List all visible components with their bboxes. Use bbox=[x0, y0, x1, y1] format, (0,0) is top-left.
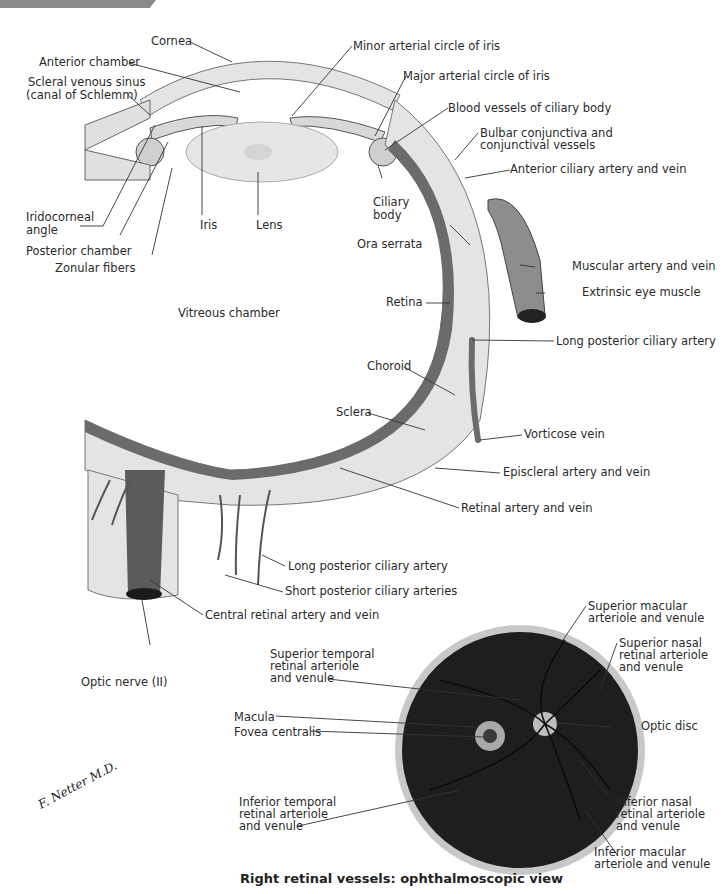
label-retina: Retina bbox=[386, 296, 423, 309]
label-superior-temporal-3: and venule bbox=[270, 672, 334, 685]
label-long-posterior-ciliary-2: Long posterior ciliary artery bbox=[288, 560, 448, 573]
label-short-posterior-ciliary: Short posterior ciliary arteries bbox=[285, 585, 457, 598]
label-long-posterior-ciliary-1: Long posterior ciliary artery bbox=[556, 335, 716, 348]
label-cornea: Cornea bbox=[151, 35, 192, 48]
label-major-arterial-circle: Major arterial circle of iris bbox=[403, 70, 550, 83]
label-vitreous-chamber: Vitreous chamber bbox=[178, 307, 280, 320]
label-macula: Macula bbox=[234, 711, 275, 724]
label-episcleral: Episcleral artery and vein bbox=[503, 466, 650, 479]
label-inferior-temporal-3: and venule bbox=[239, 820, 303, 833]
label-angle: angle bbox=[26, 224, 58, 237]
label-iris: Iris bbox=[200, 219, 217, 232]
label-lens: Lens bbox=[256, 219, 283, 232]
figure-caption: Right retinal vessels: ophthalmoscopic v… bbox=[240, 871, 563, 886]
label-choroid: Choroid bbox=[367, 360, 411, 373]
label-fovea-centralis: Fovea centralis bbox=[234, 726, 321, 739]
label-vorticose-vein: Vorticose vein bbox=[524, 428, 605, 441]
label-extrinsic-muscle: Extrinsic eye muscle bbox=[582, 286, 701, 299]
label-blood-vessels-ciliary: Blood vessels of ciliary body bbox=[448, 102, 611, 115]
label-canal-of-schlemm: (canal of Schlemm) bbox=[26, 89, 138, 102]
label-inferior-macular-2: arteriole and venule bbox=[594, 858, 710, 871]
label-superior-nasal-3: and venule bbox=[619, 661, 683, 674]
label-zonular-fibers: Zonular fibers bbox=[55, 262, 135, 275]
label-optic-disc: Optic disc bbox=[641, 720, 698, 733]
label-optic-nerve: Optic nerve (II) bbox=[81, 676, 167, 689]
label-anterior-chamber: Anterior chamber bbox=[39, 56, 140, 69]
label-retinal-artery: Retinal artery and vein bbox=[461, 502, 593, 515]
label-body: body bbox=[373, 209, 401, 222]
label-sclera: Sclera bbox=[336, 406, 372, 419]
label-minor-arterial-circle: Minor arterial circle of iris bbox=[353, 40, 500, 53]
label-conjunctival-vessels: conjunctival vessels bbox=[480, 139, 595, 152]
label-superior-macular-2: arteriole and venule bbox=[588, 612, 704, 625]
label-anterior-ciliary: Anterior ciliary artery and vein bbox=[510, 163, 686, 176]
label-muscular-artery: Muscular artery and vein bbox=[572, 260, 716, 273]
label-inferior-nasal-3: and venule bbox=[616, 820, 680, 833]
label-ora-serrata: Ora serrata bbox=[357, 238, 422, 251]
label-posterior-chamber: Posterior chamber bbox=[26, 245, 131, 258]
label-central-retinal: Central retinal artery and vein bbox=[205, 609, 379, 622]
